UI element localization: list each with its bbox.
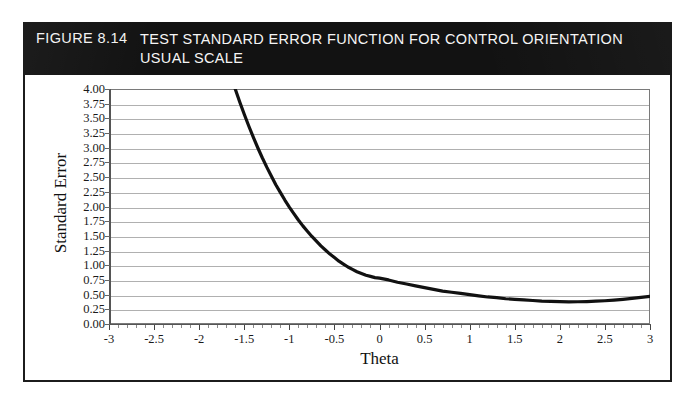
curve-path: [235, 89, 650, 302]
x-tick-mark-minor: [127, 325, 128, 328]
figure-title-band: FIGURE 8.14 TEST STANDARD ERROR FUNCTION…: [23, 22, 672, 75]
x-tick-mark-minor: [533, 325, 534, 328]
figure-title-line-1: TEST STANDARD ERROR FUNCTION FOR CONTROL…: [140, 31, 623, 47]
x-tick-mark: [650, 325, 651, 330]
x-tick-label: -3: [86, 332, 132, 347]
x-tick-mark-minor: [434, 325, 435, 328]
figure-title: TEST STANDARD ERROR FUNCTION FOR CONTROL…: [140, 30, 660, 68]
x-tick-mark: [109, 325, 110, 330]
standard-error-curve: [109, 89, 650, 324]
x-tick-mark-minor: [524, 325, 525, 328]
x-tick-mark-minor: [398, 325, 399, 328]
x-tick-mark: [289, 325, 290, 330]
x-tick-mark: [380, 325, 381, 330]
x-tick-mark-minor: [307, 325, 308, 328]
x-tick-mark-minor: [542, 325, 543, 328]
x-tick-mark-minor: [614, 325, 615, 328]
x-tick-mark-minor: [316, 325, 317, 328]
figure-title-line-2: USUAL SCALE: [140, 49, 660, 68]
x-tick-mark-minor: [632, 325, 633, 328]
x-tick-label: 0.5: [402, 332, 448, 347]
x-tick-mark-minor: [407, 325, 408, 328]
x-tick-mark: [334, 325, 335, 330]
x-tick-mark-minor: [479, 325, 480, 328]
chart-plot-area: 0.000.250.500.751.001.251.501.752.002.25…: [25, 75, 670, 378]
x-tick-mark: [199, 325, 200, 330]
x-tick-mark-minor: [443, 325, 444, 328]
x-tick-label: -1: [266, 332, 312, 347]
x-tick-mark: [605, 325, 606, 330]
x-tick-label: 0: [357, 332, 403, 347]
x-tick-mark-minor: [623, 325, 624, 328]
figure-body: 0.000.250.500.751.001.251.501.752.002.25…: [23, 75, 672, 382]
x-tick-mark-minor: [488, 325, 489, 328]
x-tick-mark-minor: [416, 325, 417, 328]
x-tick-mark-minor: [569, 325, 570, 328]
x-tick-mark-minor: [226, 325, 227, 328]
y-axis-label: Standard Error: [51, 103, 71, 303]
x-tick-mark-minor: [118, 325, 119, 328]
x-tick-label: 2.5: [582, 332, 628, 347]
x-tick-mark-minor: [235, 325, 236, 328]
x-tick-mark-minor: [343, 325, 344, 328]
x-tick-mark-minor: [298, 325, 299, 328]
x-tick-mark-minor: [596, 325, 597, 328]
x-tick-label: 1: [447, 332, 493, 347]
x-tick-mark-minor: [370, 325, 371, 328]
x-tick-label: -1.5: [221, 332, 267, 347]
x-tick-mark-minor: [217, 325, 218, 328]
x-tick-mark: [560, 325, 561, 330]
x-tick-label: 1.5: [492, 332, 538, 347]
x-tick-mark-minor: [506, 325, 507, 328]
x-tick-mark-minor: [497, 325, 498, 328]
x-tick-mark-minor: [163, 325, 164, 328]
x-tick-mark-minor: [578, 325, 579, 328]
x-tick-label: -2: [176, 332, 222, 347]
x-tick-mark-minor: [181, 325, 182, 328]
x-tick-mark-minor: [136, 325, 137, 328]
x-tick-label: 2: [537, 332, 583, 347]
figure-number: FIGURE 8.14: [36, 30, 127, 46]
x-axis-label: Theta: [109, 349, 650, 369]
x-tick-mark: [154, 325, 155, 330]
x-tick-mark-minor: [352, 325, 353, 328]
figure-container: FIGURE 8.14 TEST STANDARD ERROR FUNCTION…: [23, 22, 672, 382]
x-tick-mark-minor: [271, 325, 272, 328]
x-tick-mark-minor: [461, 325, 462, 328]
x-tick-label: -2.5: [131, 332, 177, 347]
x-tick-mark-minor: [551, 325, 552, 328]
x-tick-mark-minor: [145, 325, 146, 328]
x-tick-mark-minor: [253, 325, 254, 328]
x-tick-mark-minor: [280, 325, 281, 328]
x-tick-mark-minor: [262, 325, 263, 328]
x-tick-mark: [425, 325, 426, 330]
y-tick-label: 0.00: [57, 318, 105, 330]
x-tick-mark-minor: [641, 325, 642, 328]
y-tick-label: 0.25: [57, 303, 105, 315]
x-tick-mark-minor: [172, 325, 173, 328]
x-tick-label: -0.5: [311, 332, 357, 347]
x-tick-mark: [515, 325, 516, 330]
x-tick-mark: [470, 325, 471, 330]
y-tick-label: 4.00: [57, 83, 105, 95]
x-tick-mark: [244, 325, 245, 330]
x-tick-mark-minor: [587, 325, 588, 328]
x-tick-mark-minor: [190, 325, 191, 328]
x-tick-mark-minor: [208, 325, 209, 328]
x-tick-mark-minor: [325, 325, 326, 328]
x-tick-label: 3: [627, 332, 673, 347]
x-tick-mark-minor: [389, 325, 390, 328]
x-tick-mark-minor: [361, 325, 362, 328]
x-tick-mark-minor: [452, 325, 453, 328]
